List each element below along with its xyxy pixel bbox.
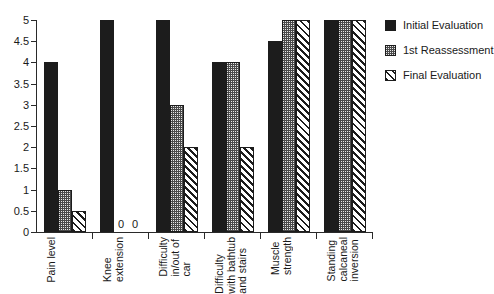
y-axis-tick-label: 3 <box>23 99 29 110</box>
legend-swatch-icon <box>385 20 396 31</box>
bar <box>324 20 338 232</box>
x-axis-group-separator <box>372 232 373 239</box>
bar <box>156 20 170 232</box>
bar <box>44 62 58 232</box>
legend-item: Initial Evaluation <box>385 14 493 36</box>
y-axis-tick-label: 2.5 <box>14 121 29 132</box>
bar <box>240 147 254 232</box>
bar <box>338 20 352 232</box>
bar-group <box>324 20 366 232</box>
bar-group <box>44 20 86 232</box>
y-axis-tick-label: 3.5 <box>14 78 29 89</box>
zero-value-label: 0 <box>114 219 128 230</box>
bar-group <box>212 20 254 232</box>
bar <box>72 211 86 232</box>
legend-item-label: 1st Reassessment <box>403 44 493 56</box>
y-axis-tick-label: 1 <box>23 184 29 195</box>
bar <box>184 147 198 232</box>
bar-group <box>156 20 198 232</box>
bar <box>268 41 282 232</box>
y-axis-tick <box>31 41 37 42</box>
bar <box>170 105 184 232</box>
legend-swatch-icon <box>385 45 396 56</box>
x-axis-label: Difficulty in/out of car <box>158 237 193 276</box>
bar <box>282 20 296 232</box>
x-axis-group-separator <box>148 232 149 239</box>
y-axis-tick-label: 2 <box>23 142 29 153</box>
y-axis-tick <box>31 190 37 191</box>
x-axis-group-separator <box>204 232 205 239</box>
legend-swatch-icon <box>385 70 396 81</box>
zero-value-label: 0 <box>128 219 142 230</box>
x-axis-label: Knee extension <box>102 237 125 282</box>
y-axis-tick-label: 0 <box>23 227 29 238</box>
bar <box>226 62 240 232</box>
chart-legend: Initial Evaluation1st ReassessmentFinal … <box>385 14 493 89</box>
y-axis-tick-label: 0.5 <box>14 205 29 216</box>
y-axis-tick <box>31 20 37 21</box>
x-axis-group-separator <box>260 232 261 239</box>
y-axis-tick <box>31 211 37 212</box>
x-axis-label: Difficulty with bathtub and stairs <box>214 237 249 294</box>
y-axis-tick-label: 5 <box>23 15 29 26</box>
x-axis-label: Pain level <box>46 237 58 283</box>
bar <box>212 62 226 232</box>
y-axis-tick-label: 4 <box>23 57 29 68</box>
bar <box>58 190 72 232</box>
y-axis-tick <box>31 168 37 169</box>
bar-group <box>100 20 142 232</box>
y-axis-tick <box>31 147 37 148</box>
y-axis-tick-label: 4.5 <box>14 36 29 47</box>
bar <box>296 20 310 232</box>
bar <box>352 20 366 232</box>
legend-item: 1st Reassessment <box>385 39 493 61</box>
plot-area: 00.511.522.533.544.55 00 <box>36 20 372 232</box>
x-axis-group-separator <box>92 232 93 239</box>
bar-group <box>268 20 310 232</box>
x-axis-label: Standing calcaneal inversion <box>326 237 361 281</box>
y-axis-tick <box>31 84 37 85</box>
y-axis-tick <box>31 105 37 106</box>
y-axis-tick <box>31 126 37 127</box>
x-axis-group-separator <box>316 232 317 239</box>
x-axis-label: Muscle strength <box>270 237 293 275</box>
y-axis-tick <box>31 232 37 233</box>
legend-item-label: Final Evaluation <box>403 69 481 81</box>
bar <box>100 20 114 232</box>
y-axis-tick-label: 1.5 <box>14 163 29 174</box>
legend-item-label: Initial Evaluation <box>403 19 483 31</box>
legend-item: Final Evaluation <box>385 64 493 86</box>
y-axis-tick <box>31 62 37 63</box>
